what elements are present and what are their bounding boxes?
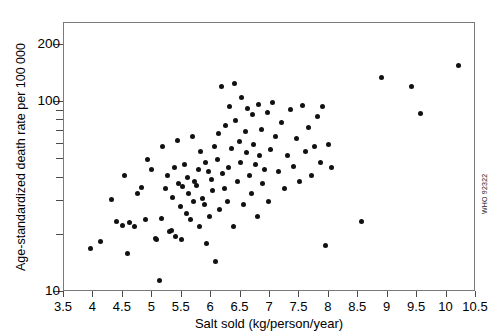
data-point bbox=[232, 81, 237, 86]
data-point bbox=[120, 223, 125, 228]
data-point bbox=[202, 202, 207, 207]
data-point bbox=[213, 259, 218, 264]
data-point bbox=[194, 183, 199, 188]
data-point bbox=[244, 150, 249, 155]
data-point bbox=[219, 84, 224, 89]
data-point bbox=[169, 228, 174, 233]
data-point bbox=[268, 147, 273, 152]
data-point bbox=[135, 191, 140, 196]
data-point bbox=[259, 127, 264, 132]
data-point bbox=[288, 107, 293, 112]
data-point bbox=[185, 175, 190, 180]
data-point bbox=[207, 214, 212, 219]
data-point bbox=[256, 102, 261, 107]
data-point bbox=[212, 144, 217, 149]
y-tick-label: 100 bbox=[16, 94, 60, 107]
x-tick-mark bbox=[63, 291, 64, 297]
data-point bbox=[159, 216, 164, 221]
data-point bbox=[253, 162, 258, 167]
x-tick-mark bbox=[269, 291, 270, 297]
data-point bbox=[132, 224, 137, 229]
data-point bbox=[198, 149, 203, 154]
data-point bbox=[179, 237, 184, 242]
data-point bbox=[175, 138, 180, 143]
data-point bbox=[300, 103, 305, 108]
data-point bbox=[170, 195, 175, 200]
data-point bbox=[456, 63, 461, 68]
data-point bbox=[266, 199, 271, 204]
data-point bbox=[160, 144, 165, 149]
data-point bbox=[186, 191, 191, 196]
x-tick-mark bbox=[210, 291, 211, 297]
data-point bbox=[125, 251, 130, 256]
data-point bbox=[197, 224, 202, 229]
x-tick-mark bbox=[181, 291, 182, 297]
data-point bbox=[217, 207, 222, 212]
data-point bbox=[231, 224, 236, 229]
data-point bbox=[257, 153, 262, 158]
y-tick-mark bbox=[56, 143, 63, 144]
y-tick-mark bbox=[56, 119, 63, 120]
data-point bbox=[418, 111, 423, 116]
data-point bbox=[223, 123, 228, 128]
y-tick-mark bbox=[56, 158, 63, 159]
data-point bbox=[265, 110, 270, 115]
data-point bbox=[88, 246, 93, 251]
data-point bbox=[114, 219, 119, 224]
data-point bbox=[245, 106, 250, 111]
data-point bbox=[294, 136, 299, 141]
data-point bbox=[154, 237, 159, 242]
data-point bbox=[329, 165, 334, 170]
data-point bbox=[139, 185, 144, 190]
y-tick-mark bbox=[56, 130, 63, 131]
data-point bbox=[297, 179, 302, 184]
data-point bbox=[276, 169, 281, 174]
data-point bbox=[249, 191, 254, 196]
data-point bbox=[157, 278, 162, 283]
data-point bbox=[262, 167, 267, 172]
data-point bbox=[247, 173, 252, 178]
data-point bbox=[188, 217, 193, 222]
data-point bbox=[323, 243, 328, 248]
data-point bbox=[203, 160, 208, 165]
data-point bbox=[243, 129, 248, 134]
data-point bbox=[204, 241, 209, 246]
plot-area bbox=[63, 22, 475, 291]
data-point bbox=[145, 157, 150, 162]
data-point bbox=[206, 169, 211, 174]
data-point bbox=[209, 177, 214, 182]
data-point bbox=[143, 217, 148, 222]
x-tick-mark bbox=[122, 291, 123, 297]
data-point bbox=[285, 153, 290, 158]
x-tick-mark bbox=[151, 291, 152, 297]
data-point bbox=[180, 184, 185, 189]
data-point bbox=[225, 199, 230, 204]
data-point bbox=[379, 75, 384, 80]
data-point bbox=[233, 118, 238, 123]
y-tick-mark bbox=[56, 110, 63, 111]
data-point bbox=[320, 104, 325, 109]
data-point bbox=[182, 162, 187, 167]
data-point bbox=[409, 84, 414, 89]
x-axis-title: Salt sold (kg/person/year) bbox=[63, 316, 475, 331]
data-point bbox=[184, 211, 189, 216]
data-point bbox=[190, 134, 195, 139]
x-tick-mark bbox=[298, 291, 299, 297]
scatter-plot-figure: Age-standardized death rate per 100 000 … bbox=[0, 0, 503, 335]
data-point bbox=[250, 112, 255, 117]
y-tick-label: 200 bbox=[16, 37, 60, 50]
data-point bbox=[210, 188, 215, 193]
data-point bbox=[149, 167, 154, 172]
data-point bbox=[359, 219, 364, 224]
data-point bbox=[216, 131, 221, 136]
y-tick-label: 10 bbox=[16, 284, 60, 297]
data-point bbox=[215, 157, 220, 162]
data-point bbox=[229, 146, 234, 151]
data-point bbox=[98, 239, 103, 244]
y-tick-mark bbox=[56, 177, 63, 178]
data-point bbox=[318, 160, 323, 165]
data-point bbox=[235, 179, 240, 184]
data-point bbox=[165, 173, 170, 178]
data-point bbox=[238, 160, 243, 165]
data-point bbox=[239, 95, 244, 100]
